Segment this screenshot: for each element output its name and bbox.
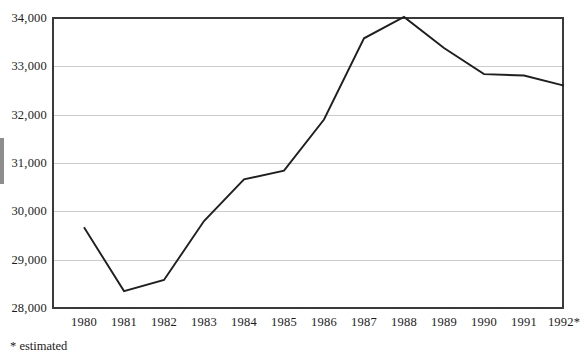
y-tick-label: 30,000 [11,205,47,218]
y-tick-label: 28,000 [11,302,47,315]
y-tick-label: 33,000 [11,60,47,73]
chart-footnote: * estimated [10,340,67,353]
x-tick-label: 1992* [534,316,584,329]
y-tick-label: 34,000 [11,12,47,25]
y-tick-label: 32,000 [11,109,47,122]
y-tick-label: 31,000 [11,157,47,170]
y-tick-label: 29,000 [11,254,47,267]
